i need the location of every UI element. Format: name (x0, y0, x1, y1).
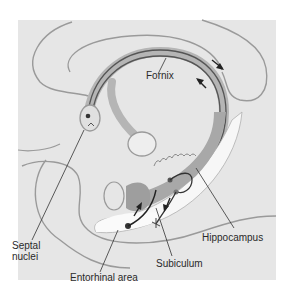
label-subiculum: Subiculum (156, 258, 203, 269)
label-fornix: Fornix (146, 70, 174, 81)
brain-diagram: Fornix Septal nuclei Entorhinal area Sub… (0, 0, 288, 290)
label-hippocampus: Hippocampus (202, 232, 263, 243)
diagram-canvas (0, 0, 288, 290)
septal-nuclei-region (80, 105, 100, 131)
label-entorhinal-area: Entorhinal area (70, 272, 138, 283)
label-septal-nuclei: Septal nuclei (12, 240, 40, 262)
amygdala-outline (104, 182, 124, 210)
septal-neuron-dot (86, 114, 91, 119)
mammillary-body (128, 132, 156, 156)
